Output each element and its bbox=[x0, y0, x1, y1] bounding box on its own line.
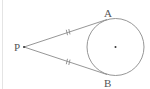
diagram-canvas: P A B bbox=[0, 0, 150, 89]
label-b: B bbox=[104, 77, 111, 89]
center-point bbox=[115, 46, 117, 48]
point-p bbox=[23, 46, 25, 48]
label-p: P bbox=[14, 41, 20, 53]
label-a: A bbox=[104, 7, 112, 19]
tangent-diagram: P A B bbox=[0, 0, 150, 89]
tangent-segment-pb bbox=[24, 47, 107, 75]
tangent-segment-pa bbox=[24, 20, 107, 48]
